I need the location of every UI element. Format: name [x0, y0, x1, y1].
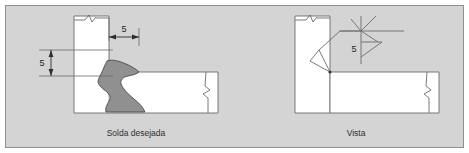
- arrowhead-right: [132, 35, 139, 40]
- symbol-lower-tick: [361, 31, 378, 42]
- figure-page: 5 5 Solda desejada: [0, 0, 469, 153]
- arrowhead-left: [109, 35, 116, 40]
- right-view-caption: Vista: [347, 128, 366, 138]
- technical-drawing: 5 5 Solda desejada: [6, 6, 463, 147]
- left-vertical-plate: [74, 16, 109, 113]
- dimension-value-horizontal: 5: [121, 24, 126, 34]
- fillet-weld-triangle-icon: [361, 42, 382, 57]
- left-view-group: 5 5 Solda desejada: [39, 15, 218, 138]
- figure-frame: 5 5 Solda desejada: [5, 5, 464, 148]
- vertical-plate-outline: [74, 16, 109, 113]
- weld-size-value: 5: [351, 44, 356, 54]
- right-horizontal-plate: [330, 72, 439, 113]
- leader-arrow-point: [328, 70, 331, 73]
- left-view-caption: Solda desejada: [107, 128, 166, 138]
- arrowhead-top: [49, 50, 54, 57]
- dimension-value-vertical: 5: [39, 58, 44, 68]
- symbol-upper-tick: [361, 16, 376, 31]
- symbol-tail-tick: [351, 19, 361, 31]
- arrowhead-bottom: [49, 69, 54, 76]
- dimension-horizontal: 5: [109, 18, 139, 46]
- right-view-group: 5 Vista: [295, 15, 439, 138]
- right-vertical-plate: [295, 16, 330, 113]
- welding-symbol: 5: [340, 16, 404, 64]
